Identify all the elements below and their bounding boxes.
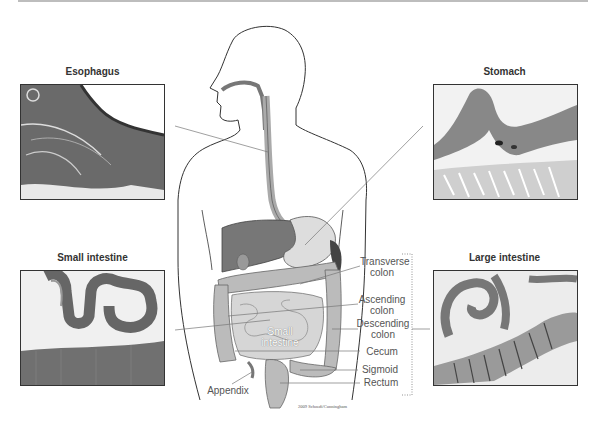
descending-colon <box>324 270 341 370</box>
rectum <box>265 360 288 409</box>
leader-stomach <box>305 126 423 245</box>
stomach-micrograph <box>433 84 578 200</box>
label-transverse-colon: Transverse colon <box>360 256 404 278</box>
gallbladder <box>237 254 249 270</box>
panel-title-large-intestine: Large intestine <box>432 252 577 263</box>
panel-title-small-intestine: Small intestine <box>20 252 165 263</box>
small-intestine-micrograph <box>20 270 165 386</box>
esophagus-micrograph <box>20 84 165 200</box>
panel-title-stomach: Stomach <box>432 66 577 77</box>
credit-text: 2009 Schoedi/Cunningham <box>298 404 347 409</box>
label-descending-colon: Descending colon <box>356 318 410 340</box>
pharynx <box>222 83 265 130</box>
left-arm-line <box>202 210 212 270</box>
label-ascending-colon: Ascending colon <box>358 294 406 316</box>
panel-title-esophagus: Esophagus <box>20 66 165 77</box>
leader-appendix <box>232 372 252 384</box>
label-rectum: Rectum <box>360 377 402 388</box>
label-appendix: Appendix <box>203 385 253 396</box>
label-small-intestine: Small intestine <box>256 326 304 348</box>
label-cecum: Cecum <box>362 346 402 357</box>
label-sigmoid: Sigmoid <box>358 364 402 375</box>
esophagus <box>266 96 300 232</box>
appendix <box>248 362 253 378</box>
large-intestine-micrograph <box>433 270 578 386</box>
leader-esophagus <box>175 126 268 152</box>
